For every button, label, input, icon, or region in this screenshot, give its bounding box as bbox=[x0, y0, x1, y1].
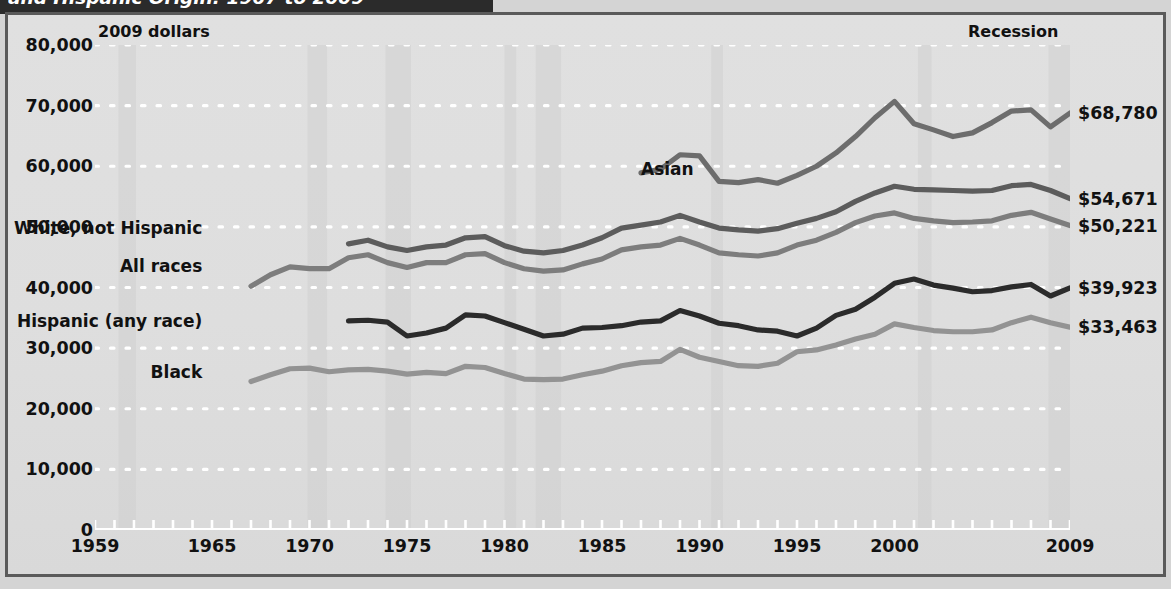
y-axis-tick-label: 40,000 bbox=[25, 278, 93, 298]
series-label-black: Black bbox=[151, 362, 203, 382]
x-axis-tick-label: 1970 bbox=[285, 536, 334, 556]
chart-page: and Hispanic Origin: 1967 to 2009 2009 d… bbox=[0, 0, 1171, 589]
y-axis-tick-label: 20,000 bbox=[25, 399, 93, 419]
x-axis-tick-label: 1990 bbox=[675, 536, 724, 556]
x-axis-tick-label: 2009 bbox=[1046, 536, 1095, 556]
y-axis-tick-label: 70,000 bbox=[25, 96, 93, 116]
end-value-label-all-races: $50,221 bbox=[1078, 216, 1158, 236]
unit-note: 2009 dollars bbox=[98, 22, 210, 41]
y-axis-labels: 010,00020,00030,00040,00050,00060,00070,… bbox=[0, 0, 93, 589]
end-value-label-white-not-hispanic: $54,671 bbox=[1078, 189, 1158, 209]
x-axis-tick-label: 1985 bbox=[578, 536, 627, 556]
y-axis-tick-label: 80,000 bbox=[25, 35, 93, 55]
end-value-label-asian: $68,780 bbox=[1078, 103, 1158, 123]
x-axis-tick-label: 1980 bbox=[480, 536, 529, 556]
x-axis-tick-label: 1995 bbox=[773, 536, 822, 556]
x-axis-tick-label: 1959 bbox=[71, 536, 120, 556]
series-line-white-not-hispanic bbox=[349, 184, 1071, 253]
series-label-white-not-hispanic: White, not Hispanic bbox=[14, 218, 202, 238]
x-axis-tick-label: 2000 bbox=[870, 536, 919, 556]
series-label-asian: Asian bbox=[641, 159, 694, 179]
end-value-label-black: $33,463 bbox=[1078, 317, 1158, 337]
series-label-hispanic-any-race: Hispanic (any race) bbox=[17, 311, 202, 331]
x-axis-tick-label: 1975 bbox=[383, 536, 432, 556]
end-value-label-hispanic-any-race: $39,923 bbox=[1078, 278, 1158, 298]
x-axis-labels: 1959196519701975198019851990199520002009 bbox=[0, 536, 1171, 566]
recession-legend-label: Recession bbox=[968, 22, 1058, 41]
y-axis-tick-label: 30,000 bbox=[25, 338, 93, 358]
line-chart-plot bbox=[95, 45, 1070, 530]
x-axis-tick-label: 1965 bbox=[188, 536, 237, 556]
series-line-asian bbox=[641, 101, 1070, 183]
y-axis-tick-label: 10,000 bbox=[25, 459, 93, 479]
y-axis-tick-label: 60,000 bbox=[25, 156, 93, 176]
series-line-hispanic-any-race bbox=[349, 279, 1071, 336]
series-label-all-races: All races bbox=[120, 256, 202, 276]
